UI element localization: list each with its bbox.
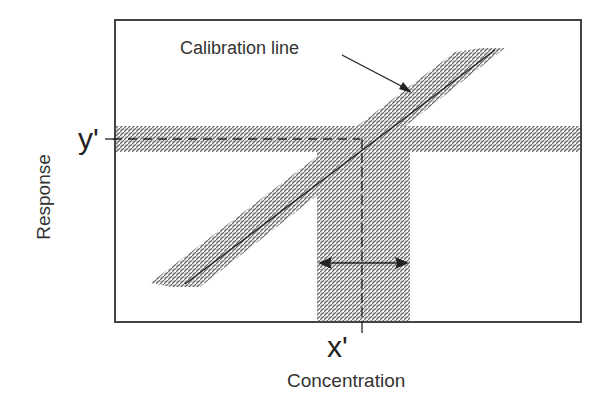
- y-axis-title: Response: [33, 147, 55, 247]
- calibration-diagram: [0, 0, 603, 407]
- y-prime-label: y': [78, 122, 99, 156]
- callout-pointer: [342, 55, 405, 88]
- x-prime-label: x': [327, 330, 348, 364]
- x-axis-title: Concentration: [287, 370, 405, 392]
- calibration-line-label: Calibration line: [180, 38, 299, 59]
